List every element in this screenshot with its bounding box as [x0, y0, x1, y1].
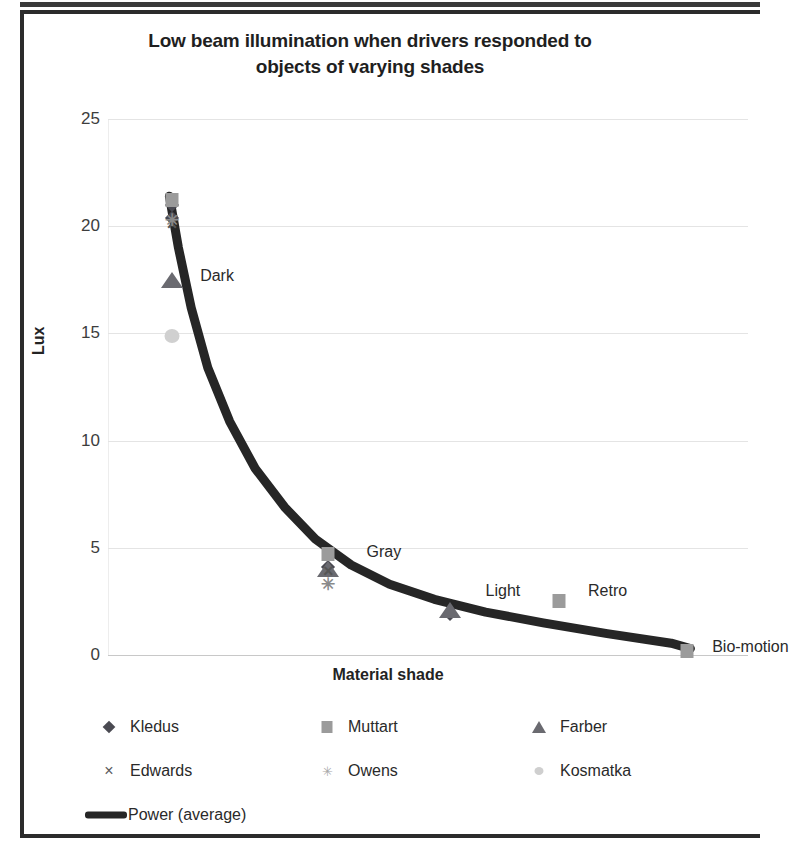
marker-muttart-0	[166, 193, 179, 207]
asterisk-marker-icon: ✳	[314, 762, 340, 780]
legend-label: Power (average)	[128, 806, 246, 824]
legend-label: Edwards	[130, 762, 192, 780]
marker-kosmatka-0	[165, 329, 180, 343]
annotation-bio-motion: Bio-motion	[712, 638, 788, 656]
marker-muttart-2	[552, 594, 565, 608]
marker-muttart-1	[322, 547, 335, 561]
marker-muttart-3	[680, 644, 693, 658]
triangle-marker-icon	[526, 718, 552, 736]
y-tick-label-5: 5	[46, 538, 100, 558]
legend-label: Owens	[348, 762, 398, 780]
plot-area: ××✳✳ DarkGrayLightRetroBio-motion	[108, 119, 748, 655]
legend-label: Muttart	[348, 718, 398, 736]
marker-farber-0	[161, 272, 183, 288]
legend-item-muttart[interactable]: Muttart	[314, 716, 398, 738]
y-tick-label-15: 15	[46, 323, 100, 343]
y-tick-label-10: 10	[46, 431, 100, 451]
annotation-gray: Gray	[367, 543, 402, 561]
chart-legend: KledusMuttartFarber×Edwards✳OwensKosmatk…	[96, 716, 696, 820]
circle-marker-icon	[526, 762, 552, 780]
square-marker-icon	[314, 718, 340, 736]
cross-marker-icon: ×	[96, 762, 122, 780]
diamond-marker-icon	[96, 718, 122, 736]
gridline-0	[108, 655, 748, 656]
chart-title: Low beam illumination when drivers respo…	[60, 28, 680, 79]
y-axis-tick-labels: 2520151050	[40, 119, 100, 655]
legend-item-farber[interactable]: Farber	[526, 716, 607, 738]
legend-item-kledus[interactable]: Kledus	[96, 716, 179, 738]
marker-farber-1	[439, 602, 461, 618]
y-tick-label-25: 25	[46, 109, 100, 129]
power-average-trendline	[108, 119, 748, 655]
x-axis-title: Material shade	[108, 666, 668, 684]
chart-title-line-1: Low beam illumination when drivers respo…	[60, 28, 680, 54]
marker-owens-1: ✳	[321, 576, 335, 593]
legend-label: Farber	[560, 718, 607, 736]
legend-item-edwards[interactable]: ×Edwards	[96, 760, 192, 782]
legend-item-kosmatka[interactable]: Kosmatka	[526, 760, 631, 782]
y-tick-label-20: 20	[46, 216, 100, 236]
annotation-light: Light	[486, 582, 521, 600]
legend-label: Kledus	[130, 718, 179, 736]
legend-label: Kosmatka	[560, 762, 631, 780]
line-swatch-icon	[84, 806, 128, 824]
scan-edge-top	[20, 2, 760, 7]
annotation-dark: Dark	[200, 267, 234, 285]
legend-item-power-average-[interactable]: Power (average)	[84, 804, 246, 826]
chart-title-line-2: objects of varying shades	[60, 54, 680, 80]
marker-owens-0: ✳	[165, 211, 179, 228]
y-tick-label-0: 0	[46, 645, 100, 665]
annotation-retro: Retro	[588, 582, 627, 600]
trendline-path	[169, 196, 690, 648]
legend-item-owens[interactable]: ✳Owens	[314, 760, 398, 782]
